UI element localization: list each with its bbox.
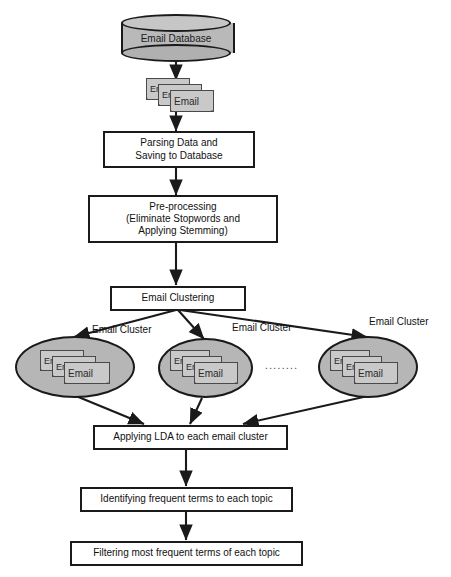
- filtering-terms-label: Filtering most frequent terms of each to…: [72, 547, 301, 559]
- email-document-3: Email: [170, 90, 214, 112]
- cluster-3-label: Email Cluster: [369, 316, 428, 327]
- edge-cluster-1-to-lda: [76, 396, 144, 424]
- email-stack-icon[interactable]: Email Email Email: [146, 78, 216, 114]
- preprocessing-line-3: Applying Stemming): [126, 225, 240, 237]
- node-applying-lda[interactable]: Applying LDA to each email cluster: [93, 425, 288, 450]
- node-parsing-data[interactable]: Parsing Data and Saving to Database: [103, 131, 255, 168]
- node-email-database[interactable]: Email Database: [121, 14, 231, 62]
- edge-cluster-3-to-lda: [243, 396, 368, 424]
- node-email-clustering[interactable]: Email Clustering: [110, 286, 246, 311]
- preprocessing-line-1: Pre-processing: [126, 201, 240, 213]
- node-identifying-terms[interactable]: Identifying frequent terms to each topic: [80, 487, 293, 512]
- cluster-ellipsis: ........: [265, 360, 298, 371]
- email-clustering-label: Email Clustering: [112, 292, 244, 304]
- email-document-3: Email: [194, 362, 238, 384]
- cluster-2-label: Email Cluster: [232, 322, 291, 333]
- email-document-3: Email: [354, 362, 398, 384]
- preprocessing-line-2: (Eliminate Stopwords and: [126, 213, 240, 225]
- parsing-line-2: Saving to Database: [135, 150, 222, 162]
- parsing-line-1: Parsing Data and: [135, 137, 222, 149]
- email-document-3: Email: [64, 362, 110, 384]
- cluster-3-email-stack-icon[interactable]: Email Email Email: [330, 350, 400, 386]
- cluster-1-label: Email Cluster: [92, 324, 151, 335]
- edge-cluster-2-to-lda: [190, 398, 202, 424]
- identifying-terms-label: Identifying frequent terms to each topic: [82, 493, 291, 505]
- node-filtering-terms[interactable]: Filtering most frequent terms of each to…: [70, 541, 303, 566]
- edge-clustering-to-cluster-2: [178, 310, 204, 339]
- applying-lda-label: Applying LDA to each email cluster: [95, 431, 286, 443]
- email-database-label: Email Database: [121, 14, 231, 62]
- cluster-1-email-stack-icon[interactable]: Email Email Email: [40, 350, 110, 386]
- cluster-2-email-stack-icon[interactable]: Email Email Email: [170, 350, 240, 386]
- node-preprocessing[interactable]: Pre-processing (Eliminate Stopwords and …: [88, 195, 278, 243]
- flowchart-diagram: Email Database Email Email Email Parsing…: [0, 0, 451, 577]
